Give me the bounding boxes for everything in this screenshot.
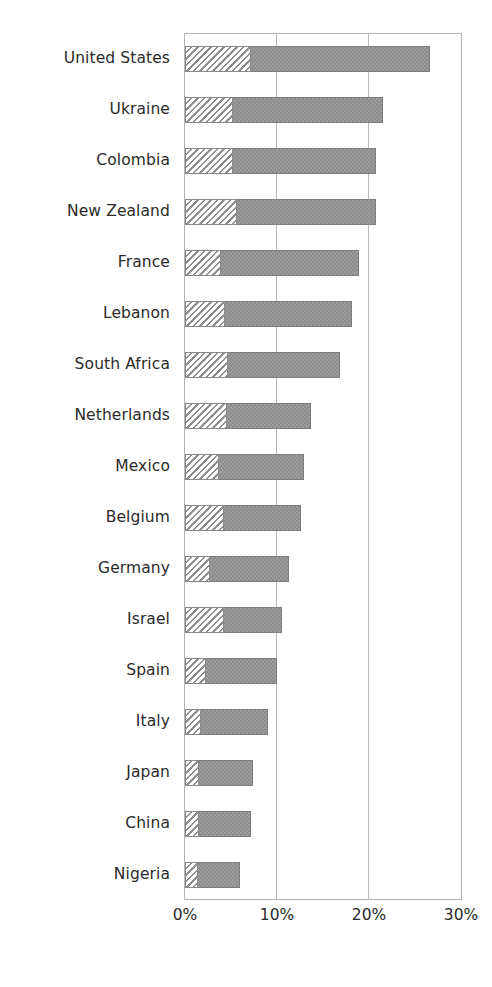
bar-row: Netherlands bbox=[0, 390, 492, 441]
horizontal-bar-chart: United StatesUkraineColombiaNew ZealandF… bbox=[0, 0, 492, 987]
bar-row: Belgium bbox=[0, 492, 492, 543]
bar-segment-hatched bbox=[185, 862, 198, 888]
bar-segment-hatched bbox=[185, 811, 199, 837]
bar-row: United States bbox=[0, 33, 492, 84]
bar-segment-hatched bbox=[185, 760, 199, 786]
bar-group bbox=[185, 862, 240, 888]
bar-segment-hatched bbox=[185, 607, 224, 633]
category-label: Mexico bbox=[0, 441, 170, 492]
category-label: South Africa bbox=[0, 339, 170, 390]
bar-segment-hatched bbox=[185, 199, 237, 225]
category-label: Germany bbox=[0, 543, 170, 594]
bar-segment-hatched bbox=[185, 403, 227, 429]
bar-segment-hatched bbox=[185, 505, 224, 531]
x-tick-label: 30% bbox=[431, 906, 491, 924]
category-label: Netherlands bbox=[0, 390, 170, 441]
bar-segment-hatched bbox=[185, 97, 233, 123]
bar-row: South Africa bbox=[0, 339, 492, 390]
category-label: Italy bbox=[0, 696, 170, 747]
bar-row: China bbox=[0, 798, 492, 849]
bar-group bbox=[185, 658, 277, 684]
bar-group bbox=[185, 607, 282, 633]
bar-group bbox=[185, 148, 376, 174]
bar-segment-hatched bbox=[185, 46, 251, 72]
bar-segment-hatched bbox=[185, 148, 233, 174]
bar-group bbox=[185, 301, 352, 327]
bar-segment-hatched bbox=[185, 454, 219, 480]
bar-row: Italy bbox=[0, 696, 492, 747]
category-label: China bbox=[0, 798, 170, 849]
category-label: United States bbox=[0, 33, 170, 84]
bar-row: Lebanon bbox=[0, 288, 492, 339]
category-label: Ukraine bbox=[0, 84, 170, 135]
bar-segment-hatched bbox=[185, 556, 210, 582]
x-tick-label: 20% bbox=[339, 906, 399, 924]
bar-row: Mexico bbox=[0, 441, 492, 492]
bar-group bbox=[185, 505, 301, 531]
bar-row: Spain bbox=[0, 645, 492, 696]
bar-group bbox=[185, 454, 304, 480]
bar-segment-hatched bbox=[185, 250, 221, 276]
bar-row: Colombia bbox=[0, 135, 492, 186]
category-label: France bbox=[0, 237, 170, 288]
bar-group bbox=[185, 556, 289, 582]
bar-segment-hatched bbox=[185, 709, 201, 735]
bar-row: Nigeria bbox=[0, 849, 492, 900]
category-label: Japan bbox=[0, 747, 170, 798]
bar-row: New Zealand bbox=[0, 186, 492, 237]
bar-segment-hatched bbox=[185, 301, 225, 327]
bar-row: France bbox=[0, 237, 492, 288]
bar-group bbox=[185, 97, 383, 123]
bar-segment-hatched bbox=[185, 352, 228, 378]
bar-row: Ukraine bbox=[0, 84, 492, 135]
category-label: Spain bbox=[0, 645, 170, 696]
category-label: New Zealand bbox=[0, 186, 170, 237]
bar-group bbox=[185, 199, 376, 225]
category-label: Israel bbox=[0, 594, 170, 645]
category-label: Nigeria bbox=[0, 849, 170, 900]
bar-group bbox=[185, 760, 253, 786]
bar-row: Germany bbox=[0, 543, 492, 594]
x-tick-label: 10% bbox=[247, 906, 307, 924]
bar-group bbox=[185, 46, 430, 72]
bar-row: Israel bbox=[0, 594, 492, 645]
bar-segment-hatched bbox=[185, 658, 206, 684]
bar-group bbox=[185, 811, 251, 837]
category-label: Lebanon bbox=[0, 288, 170, 339]
bar-group bbox=[185, 352, 340, 378]
category-label: Belgium bbox=[0, 492, 170, 543]
x-tick-label: 0% bbox=[155, 906, 215, 924]
bar-group bbox=[185, 403, 311, 429]
category-label: Colombia bbox=[0, 135, 170, 186]
bar-row: Japan bbox=[0, 747, 492, 798]
bar-group bbox=[185, 709, 268, 735]
bar-group bbox=[185, 250, 359, 276]
